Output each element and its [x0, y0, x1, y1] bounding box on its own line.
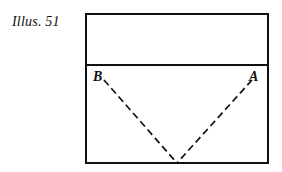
- dashed-line-a-to-vertex: [177, 80, 252, 163]
- dashed-line-b-to-vertex: [104, 80, 177, 163]
- outer-rectangle: [86, 14, 268, 163]
- geometry-diagram: B A: [0, 0, 282, 172]
- illustration-figure: Illus. 51 B A: [0, 0, 282, 172]
- vertex-label-a: A: [248, 69, 258, 84]
- vertex-label-b: B: [92, 69, 102, 84]
